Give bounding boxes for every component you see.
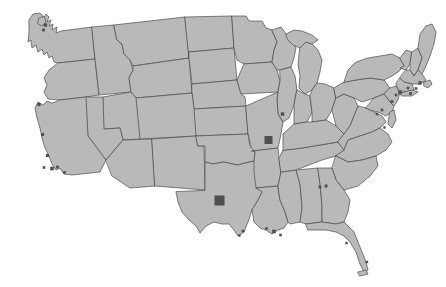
state-new-mexico [152, 136, 205, 190]
marker-mississippi-delta[interactable] [279, 234, 282, 237]
marker-st-louis-missouri[interactable] [265, 136, 273, 144]
marker-santa-barbara-california[interactable] [43, 166, 46, 169]
marker-tampa-florida[interactable] [345, 242, 347, 244]
us-map-container [0, 0, 446, 287]
marker-miami-florida[interactable] [366, 261, 368, 263]
marker-tacoma-washington[interactable] [42, 29, 45, 32]
marker-galveston-texas[interactable] [238, 234, 240, 236]
marker-san-diego-california[interactable] [63, 171, 66, 174]
state-oklahoma [196, 134, 255, 165]
marker-newark-new-jersey[interactable] [395, 94, 398, 97]
us-map-svg [0, 0, 446, 287]
marker-dallas-fort-worth-texas[interactable] [215, 196, 225, 206]
marker-boston-massachusetts[interactable] [418, 81, 421, 84]
marker-new-york-city-new-york[interactable] [398, 91, 402, 95]
state-colorado [136, 93, 196, 139]
marker-atlanta-north-georgia[interactable] [325, 185, 328, 188]
marker-san-francisco-bay-california[interactable] [37, 103, 40, 106]
marker-los-angeles-california[interactable] [50, 167, 54, 171]
marker-central-california[interactable] [41, 133, 44, 136]
marker-houston-texas[interactable] [242, 230, 245, 233]
marker-long-island-new-york[interactable] [409, 92, 412, 95]
marker-providence-rhode-island[interactable] [415, 87, 418, 90]
state-iowa [237, 62, 280, 94]
marker-philadelphia-pennsylvania[interactable] [391, 100, 394, 103]
marker-los-angeles-east-california[interactable] [56, 166, 59, 169]
marker-baltimore-maryland[interactable] [381, 109, 384, 112]
marker-atlanta-georgia[interactable] [319, 186, 322, 189]
marker-baton-rouge-louisiana[interactable] [265, 227, 268, 230]
marker-bakersfield-california[interactable] [46, 154, 49, 157]
marker-hartford-connecticut[interactable] [407, 87, 410, 90]
state-south-dakota [189, 48, 237, 84]
marker-norfolk-virginia[interactable] [383, 126, 385, 128]
marker-seattle-puget-sound-washington[interactable] [44, 23, 47, 26]
state-kansas [194, 106, 248, 136]
marker-chicago-illinois[interactable] [281, 112, 284, 115]
marker-washington-dc[interactable] [376, 113, 379, 116]
state-arkansas [252, 148, 281, 188]
marker-new-orleans-louisiana[interactable] [272, 230, 276, 234]
